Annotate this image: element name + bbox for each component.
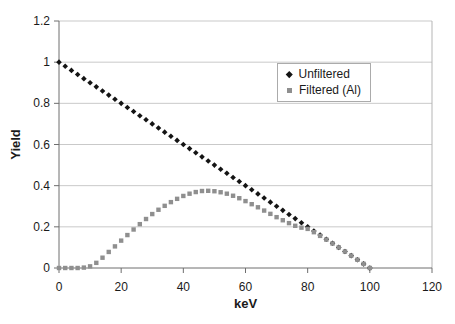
legend-item-unfiltered: Unfiltered bbox=[287, 68, 361, 81]
svg-text:0.2: 0.2 bbox=[33, 220, 50, 234]
legend-label-unfiltered: Unfiltered bbox=[299, 68, 350, 81]
svg-text:0.4: 0.4 bbox=[33, 179, 50, 193]
legend: Unfiltered Filtered (Al) bbox=[277, 63, 371, 102]
yield-spectrum-figure: 00.20.40.60.811.2020406080100120 Yield k… bbox=[0, 0, 455, 324]
y-axis-title: Yield bbox=[8, 129, 23, 160]
svg-text:80: 80 bbox=[301, 280, 315, 294]
svg-text:1: 1 bbox=[43, 55, 50, 69]
series-filtered-al bbox=[57, 189, 372, 271]
chart-canvas: 00.20.40.60.811.2020406080100120 bbox=[0, 0, 455, 324]
svg-text:0.8: 0.8 bbox=[33, 96, 50, 110]
svg-text:40: 40 bbox=[177, 280, 191, 294]
y-axis-title-wrap: Yield bbox=[6, 21, 24, 268]
svg-text:0: 0 bbox=[56, 280, 63, 294]
legend-item-filtered: Filtered (Al) bbox=[287, 84, 361, 97]
svg-text:0.6: 0.6 bbox=[33, 138, 50, 152]
legend-label-filtered: Filtered (Al) bbox=[299, 84, 361, 97]
tick-labels: 00.20.40.60.811.2020406080100120 bbox=[33, 14, 442, 294]
svg-text:60: 60 bbox=[239, 280, 253, 294]
square-marker-icon bbox=[287, 88, 292, 93]
gridlines bbox=[59, 21, 432, 268]
svg-text:20: 20 bbox=[114, 280, 128, 294]
svg-text:1.2: 1.2 bbox=[33, 14, 50, 28]
svg-text:0: 0 bbox=[43, 261, 50, 275]
svg-text:100: 100 bbox=[360, 280, 380, 294]
x-axis-title: keV bbox=[59, 296, 432, 311]
axes bbox=[54, 21, 432, 273]
diamond-marker-icon bbox=[286, 71, 292, 77]
svg-text:120: 120 bbox=[422, 280, 442, 294]
